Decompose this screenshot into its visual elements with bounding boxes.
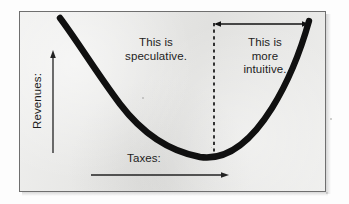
diagram-canvas bbox=[0, 0, 349, 204]
scan-speck bbox=[330, 118, 332, 120]
x-axis-label: Taxes: bbox=[104, 152, 184, 164]
span-arrow-head-left bbox=[214, 21, 221, 26]
figure-page: This is speculative. This is more intuit… bbox=[0, 0, 349, 204]
annotation-intuitive: This is more intuitive. bbox=[228, 36, 302, 77]
y-axis-label: Revenues: bbox=[31, 63, 43, 139]
annotation-speculative: This is speculative. bbox=[104, 36, 208, 63]
scan-speck bbox=[142, 97, 144, 99]
revenues-axis-arrowhead bbox=[50, 50, 56, 58]
taxes-axis-arrowhead bbox=[221, 172, 229, 178]
